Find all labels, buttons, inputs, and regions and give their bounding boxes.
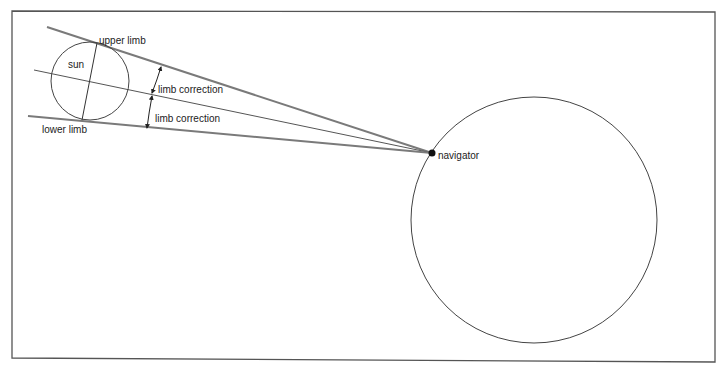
sun-diameter-line <box>82 43 97 120</box>
lower-limb-line <box>28 116 432 153</box>
limb-correction-label-lower: limb correction <box>155 113 220 124</box>
earth-circle <box>411 97 657 343</box>
upper-limb-label: upper limb <box>99 35 146 46</box>
navigator-label: navigator <box>438 150 480 161</box>
sun-label: sun <box>68 59 84 70</box>
diagram-frame <box>12 11 715 362</box>
lower-limb-label: lower limb <box>42 124 87 135</box>
limb-correction-label-upper: limb correction <box>158 84 223 95</box>
center-line <box>34 70 432 153</box>
limb-correction-arrow-lower <box>147 96 152 128</box>
navigator-point-icon <box>429 150 436 157</box>
limb-correction-diagram: upper limb sun lower limb limb correctio… <box>0 0 727 378</box>
